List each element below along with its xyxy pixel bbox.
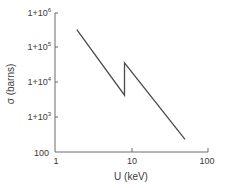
x-tick-label-1: 1 (53, 156, 58, 166)
y-axis-title: σ (barns) (5, 64, 16, 105)
x-tick-label-100: 100 (199, 156, 214, 166)
y-tick-label-1e3: 1+103 (27, 111, 51, 122)
y-tick-label-100: 100 (34, 148, 49, 158)
y-tick-label-1e6: 1+106 (27, 7, 51, 18)
y-tick-label-1e4: 1+104 (27, 76, 51, 87)
cross-section-chart: 1+106 1+105 1+104 1+103 100 1 10 100 U (… (0, 0, 229, 188)
x-axis-title: U (keV) (114, 171, 148, 182)
cross-section-line (77, 30, 185, 140)
y-tick-label-1e5: 1+105 (27, 41, 51, 52)
chart-canvas: 1+106 1+105 1+104 1+103 100 1 10 100 U (… (0, 0, 229, 188)
x-tick-label-10: 10 (127, 156, 137, 166)
